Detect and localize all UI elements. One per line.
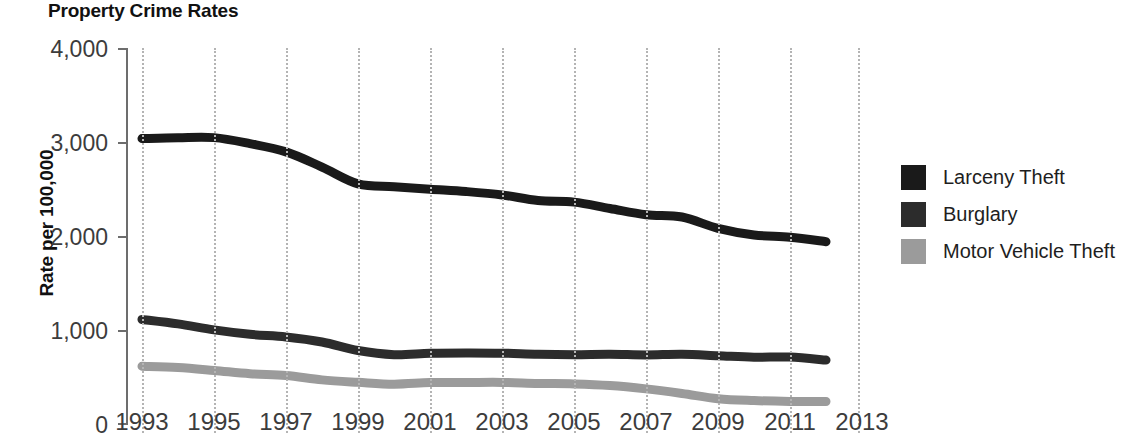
- legend-item-burglary[interactable]: Burglary: [901, 197, 1141, 231]
- x-tick-label-2007: 2007: [610, 408, 682, 436]
- legend-swatch-icon-larceny-theft: [901, 165, 926, 190]
- legend-label-larceny-theft: Larceny Theft: [943, 166, 1065, 189]
- x-tick-label-2003: 2003: [466, 408, 538, 436]
- legend-swatch-icon-burglary: [901, 202, 926, 227]
- x-tick-label-1999: 1999: [322, 408, 394, 436]
- chart-figure: Property Crime Rates Rate per 100,000 0 …: [0, 0, 1141, 446]
- x-axis-tick-labels: 1993 1995 1997 1999 2001 2003 2005 2007 …: [0, 408, 1141, 446]
- y-tick-label-2000: 2,000: [4, 224, 108, 251]
- gridline-1999: [358, 48, 360, 433]
- gridline-2001: [430, 48, 432, 433]
- y-axis-tick-labels: 0 1,000 2,000 3,000 4,000: [0, 0, 108, 446]
- x-tick-label-2001: 2001: [394, 408, 466, 436]
- gridline-2007: [646, 48, 648, 433]
- legend-label-burglary: Burglary: [943, 203, 1017, 226]
- legend-item-motor-vehicle-theft[interactable]: Motor Vehicle Theft: [901, 234, 1141, 268]
- x-tick-label-2005: 2005: [538, 408, 610, 436]
- line-motor-vehicle-theft: [142, 366, 826, 401]
- gridline-1993: [142, 48, 144, 433]
- x-tick-label-1993: 1993: [106, 408, 178, 436]
- legend-item-larceny-theft[interactable]: Larceny Theft: [901, 160, 1141, 194]
- gridline-2011: [790, 48, 792, 433]
- plot-area: [126, 40, 886, 430]
- x-tick-label-2011: 2011: [754, 408, 826, 436]
- gridline-1995: [214, 48, 216, 433]
- gridline-2003: [502, 48, 504, 433]
- y-tick-label-3000: 3,000: [4, 130, 108, 157]
- legend-swatch-icon-motor-vehicle-theft: [901, 239, 926, 264]
- x-tick-label-1997: 1997: [250, 408, 322, 436]
- gridline-1997: [286, 48, 288, 433]
- gridline-2013: [858, 48, 860, 433]
- y-tick-label-1000: 1,000: [4, 318, 108, 345]
- line-burglary: [142, 319, 826, 360]
- gridline-2009: [718, 48, 720, 433]
- gridline-2005: [574, 48, 576, 433]
- series-lines: [126, 40, 886, 430]
- x-tick-label-2013: 2013: [826, 408, 898, 436]
- x-tick-label-2009: 2009: [682, 408, 754, 436]
- chart-legend: Larceny Theft Burglary Motor Vehicle The…: [901, 160, 1141, 271]
- y-tick-label-4000: 4,000: [4, 36, 108, 63]
- legend-label-motor-vehicle-theft: Motor Vehicle Theft: [943, 240, 1115, 263]
- line-larceny-theft: [142, 137, 826, 242]
- x-tick-label-1995: 1995: [178, 408, 250, 436]
